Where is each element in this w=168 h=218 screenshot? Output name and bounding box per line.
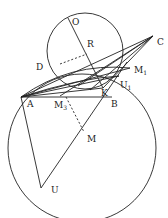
label-u: U — [51, 185, 59, 195]
label-a: A — [26, 99, 34, 109]
label-k: K — [101, 88, 108, 98]
label-o: O — [72, 17, 79, 27]
label-m1: M1 — [134, 65, 147, 76]
label-m: M — [87, 134, 96, 144]
label-m3: M3 — [54, 100, 67, 111]
line-o-k — [68, 18, 103, 88]
line-c-k — [103, 36, 153, 88]
dashed-m3-m — [66, 97, 84, 132]
line-a-u — [21, 97, 41, 188]
geometry-diagram: O R C D M1 U1 K A M3 B M U — [0, 0, 168, 218]
label-u1: U1 — [120, 80, 131, 91]
label-b: B — [111, 99, 118, 109]
dashed-d-r — [60, 54, 87, 64]
label-c: C — [157, 37, 164, 47]
label-d: D — [36, 62, 43, 72]
label-r: R — [87, 39, 94, 49]
